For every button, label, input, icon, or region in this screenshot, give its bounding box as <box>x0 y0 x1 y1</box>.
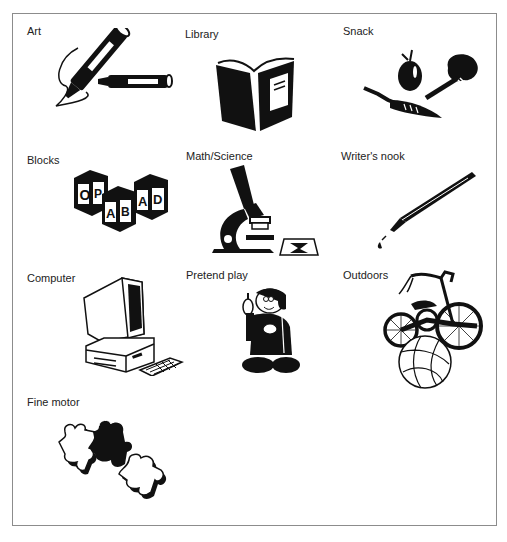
alphabet-blocks-icon: O P A B A D <box>72 168 170 236</box>
label-pretend-play: Pretend play <box>186 269 248 281</box>
fountain-pen-icon <box>372 170 476 250</box>
block-letter: B <box>121 205 130 219</box>
block-letter: O <box>80 187 91 203</box>
costumed-child-icon <box>240 287 304 377</box>
block-letter: A <box>138 194 148 209</box>
label-library: Library <box>185 28 219 40</box>
block-letter: P <box>94 187 102 201</box>
label-writers-nook: Writer's nook <box>341 150 405 162</box>
puzzle-pieces-icon <box>55 418 171 510</box>
label-blocks: Blocks <box>27 154 59 166</box>
desktop-computer-icon <box>80 272 184 376</box>
label-fine-motor: Fine motor <box>27 396 80 408</box>
label-art: Art <box>27 25 41 37</box>
tricycle-ball-icon <box>381 268 483 390</box>
block-letter: D <box>153 192 162 207</box>
marker-pens-icon <box>48 28 178 110</box>
label-snack: Snack <box>343 25 374 37</box>
fruit-vegetables-icon <box>360 48 485 126</box>
microscope-icon <box>210 165 328 257</box>
label-math-science: Math/Science <box>186 150 253 162</box>
open-book-icon <box>212 55 300 133</box>
block-letter: A <box>106 206 116 221</box>
label-computer: Computer <box>27 272 75 284</box>
